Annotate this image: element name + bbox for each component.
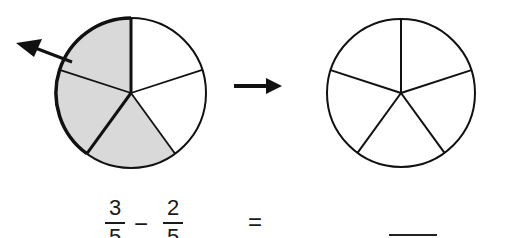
numerator: 2 — [162, 197, 184, 219]
left-pie — [56, 18, 206, 168]
denominator: 5 — [104, 226, 126, 238]
fraction-three-fifths: 3 5 — [104, 197, 126, 238]
answer-blank[interactable] — [389, 234, 437, 236]
denominator: 5 — [162, 226, 184, 238]
fraction-two-fifths: 2 5 — [162, 197, 184, 238]
numerator: 3 — [104, 197, 126, 219]
arrow-right-icon — [234, 78, 282, 94]
arrow-remove-icon — [16, 39, 72, 62]
minus-sign: − — [134, 212, 148, 236]
equals-sign: = — [248, 210, 262, 234]
right-pie — [327, 19, 475, 167]
fraction-diagram — [0, 0, 507, 238]
